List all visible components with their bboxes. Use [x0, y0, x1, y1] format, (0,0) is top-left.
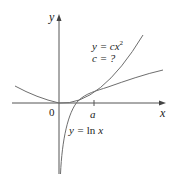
parabola-curve — [15, 35, 143, 103]
ln-eq-lhs: y = — [68, 124, 87, 136]
tick-a-label: a — [90, 108, 96, 120]
origin-label: 0 — [49, 106, 55, 118]
y-axis-arrow-icon — [57, 14, 62, 21]
x-axis — [12, 101, 166, 106]
y-axis-label: y — [48, 10, 55, 24]
x-axis-label: x — [159, 106, 166, 120]
ln-equation: y = ln x — [68, 124, 103, 136]
ln-eq-fn: ln — [87, 124, 98, 136]
parabola-equation: y = cx2 — [91, 39, 124, 52]
parabola-eq-exp: 2 — [120, 39, 124, 47]
parabola-eq-lhs: y = c — [91, 40, 115, 52]
y-axis — [57, 14, 62, 174]
ln-curve — [61, 70, 164, 174]
ln-eq-var: x — [97, 124, 103, 136]
parabola-note: c = ? — [92, 52, 116, 64]
diagram: y x 0 a y = cx2 c = ? y = ln x — [0, 0, 179, 184]
x-axis-arrow-icon — [159, 101, 166, 106]
